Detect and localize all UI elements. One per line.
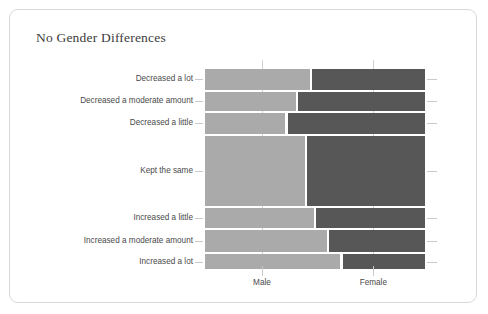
y-axis-tick-left bbox=[195, 241, 203, 242]
y-axis-labels: Decreased a lotDecreased a moderate amou… bbox=[30, 69, 193, 269]
y-axis-tick-left bbox=[195, 123, 203, 124]
x-axis-label-female: Female bbox=[360, 278, 387, 287]
y-axis-tick-right bbox=[427, 79, 437, 80]
mosaic-row bbox=[205, 92, 425, 111]
y-axis-label: Increased a lot bbox=[139, 257, 193, 265]
y-axis-tick-left bbox=[195, 171, 203, 172]
mosaic-segment-male bbox=[205, 92, 296, 111]
y-axis-label: Decreased a little bbox=[130, 119, 193, 127]
y-axis-tick-left bbox=[195, 218, 203, 219]
y-axis-tick-right bbox=[427, 262, 437, 263]
y-axis-tick-right bbox=[427, 123, 437, 124]
mosaic-segment-female bbox=[307, 136, 425, 206]
mosaic-row bbox=[205, 208, 425, 228]
mosaic-segment-female bbox=[343, 254, 426, 269]
y-axis-tick-left bbox=[195, 101, 203, 102]
mosaic-segment-male bbox=[205, 69, 310, 90]
mosaic-row bbox=[205, 69, 425, 90]
mosaic-segment-male bbox=[205, 254, 340, 269]
mosaic-plot bbox=[205, 69, 425, 269]
y-axis-label: Kept the same bbox=[140, 167, 193, 175]
mosaic-segment-male bbox=[205, 136, 305, 206]
x-axis-label-male: Male bbox=[253, 278, 271, 287]
mosaic-segment-female bbox=[316, 208, 425, 228]
mosaic-segment-male bbox=[205, 113, 285, 134]
y-axis-tick-right bbox=[427, 171, 437, 172]
mosaic-segment-female bbox=[298, 92, 425, 111]
mosaic-segment-female bbox=[312, 69, 425, 90]
mosaic-row bbox=[205, 136, 425, 206]
mosaic-segment-male bbox=[205, 208, 314, 228]
y-axis-tick-left bbox=[195, 262, 203, 263]
y-axis-tick-right bbox=[427, 101, 437, 102]
x-axis-tick bbox=[373, 266, 374, 276]
mosaic-row bbox=[205, 254, 425, 269]
y-axis-tick-left bbox=[195, 79, 203, 80]
chart-panel: No Gender Differences Decreased a lotDec… bbox=[9, 9, 477, 303]
y-axis-tick-right bbox=[427, 218, 437, 219]
y-axis-label: Decreased a moderate amount bbox=[80, 97, 193, 105]
mosaic-segment-male bbox=[205, 230, 327, 252]
x-axis-tick bbox=[262, 266, 263, 276]
y-axis-label: Increased a little bbox=[133, 214, 193, 222]
y-axis-label: Increased a moderate amount bbox=[84, 237, 193, 245]
mosaic-segment-female bbox=[288, 113, 426, 134]
mosaic-row bbox=[205, 230, 425, 252]
y-axis-label: Decreased a lot bbox=[136, 75, 193, 83]
mosaic-row bbox=[205, 113, 425, 134]
y-axis-tick-right bbox=[427, 241, 437, 242]
mosaic-segment-female bbox=[329, 230, 425, 252]
page-title: No Gender Differences bbox=[36, 30, 166, 46]
